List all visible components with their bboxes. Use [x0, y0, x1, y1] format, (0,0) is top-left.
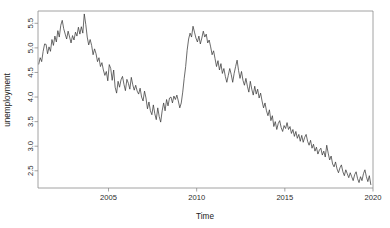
x-axis-tick-label: 2020: [365, 193, 382, 202]
unemployment-line-chart: 2.53.03.54.04.55.05.5 2005201020152020 T…: [0, 0, 390, 228]
x-axis-tick-label: 2010: [188, 193, 205, 202]
y-axis-title: unemployment: [3, 72, 12, 126]
y-axis-tick-label: 2.5: [26, 166, 35, 177]
chart-figure: 2.53.03.54.04.55.05.5 2005201020152020 T…: [0, 0, 390, 228]
x-axis-tick-label: 2015: [276, 193, 293, 202]
x-axis-tick-label: 2005: [100, 193, 117, 202]
y-axis-tick-label: 4.0: [26, 92, 35, 103]
y-axis-tick-label: 4.5: [26, 67, 35, 78]
y-axis-tick-label: 5.0: [26, 43, 35, 54]
y-axis-tick-label: 5.5: [26, 18, 35, 29]
y-axis-tick-label: 3.5: [26, 116, 35, 127]
x-axis-title: Time: [196, 212, 214, 221]
y-axis-tick-label: 3.0: [26, 141, 35, 152]
